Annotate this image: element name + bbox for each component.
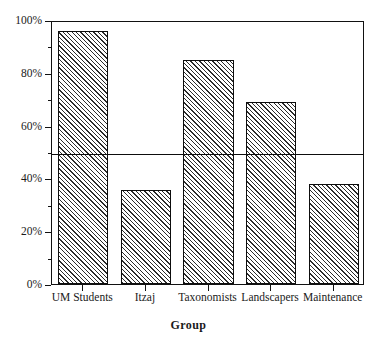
y-tick-minor (48, 206, 52, 207)
y-tick-major (45, 232, 51, 233)
reference-line-50-percent (52, 154, 363, 155)
y-tick-minor (48, 47, 52, 48)
y-tick-label: 100% (15, 15, 42, 27)
bar-um-students (58, 31, 108, 284)
x-tick-label-landscapers: Landscapers (241, 291, 298, 304)
y-tick-major (45, 285, 51, 286)
y-tick-minor (48, 153, 52, 154)
y-tick-label: 40% (21, 174, 42, 186)
x-tick-label-maintenance: Maintenance (303, 291, 362, 304)
y-tick-major (45, 21, 51, 22)
bar-maintenance (309, 184, 359, 284)
plot-area (51, 21, 364, 285)
y-tick-label: 80% (21, 68, 42, 80)
bar-chart-figure: 0%20%40%60%80%100% UM StudentsItzajTaxon… (0, 0, 377, 347)
y-tick-minor (48, 100, 52, 101)
x-tick-label-taxonomists: Taxonomists (178, 291, 237, 304)
x-tick-label-itzaj: Itzaj (135, 291, 155, 304)
y-tick-label: 0% (27, 279, 42, 291)
bar-itzaj (121, 190, 171, 284)
x-axis-title: Group (0, 318, 377, 333)
y-tick-label: 60% (21, 121, 42, 133)
y-tick-minor (48, 259, 52, 260)
bar-taxonomists (183, 60, 233, 284)
bar-landscapers (246, 102, 296, 284)
y-tick-label: 20% (21, 226, 42, 238)
y-tick-major (45, 127, 51, 128)
y-axis: 0%20%40%60%80%100% (0, 0, 51, 347)
y-tick-major (45, 179, 51, 180)
x-tick-label-um-students: UM Students (52, 291, 113, 304)
y-tick-major (45, 74, 51, 75)
